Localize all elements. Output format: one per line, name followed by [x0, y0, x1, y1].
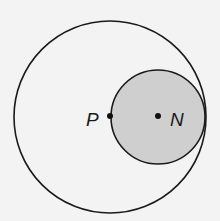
point-p-label: P	[86, 109, 99, 130]
diagram-canvas: P N	[0, 0, 220, 221]
point-p-dot	[107, 113, 113, 119]
point-n-dot	[155, 113, 161, 119]
circles-diagram: P N	[0, 0, 220, 221]
point-n-label: N	[170, 109, 184, 130]
